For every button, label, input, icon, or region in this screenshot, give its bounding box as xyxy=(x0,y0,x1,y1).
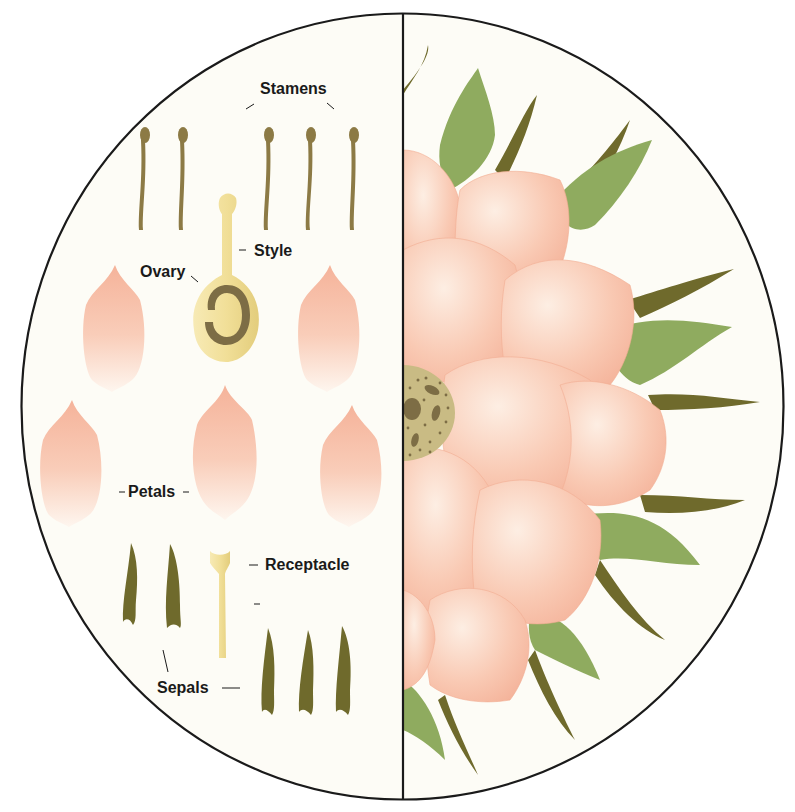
label-stamens: Stamens xyxy=(260,81,327,97)
label-ovary: Ovary xyxy=(140,264,185,280)
label-receptacle: Receptacle xyxy=(265,557,350,573)
label-petals: Petals xyxy=(128,484,175,500)
flower-diagram: Stamens Style Ovary Petals Receptacle Se… xyxy=(0,0,795,812)
label-sepals: Sepals xyxy=(157,680,209,696)
label-style: Style xyxy=(254,243,292,259)
